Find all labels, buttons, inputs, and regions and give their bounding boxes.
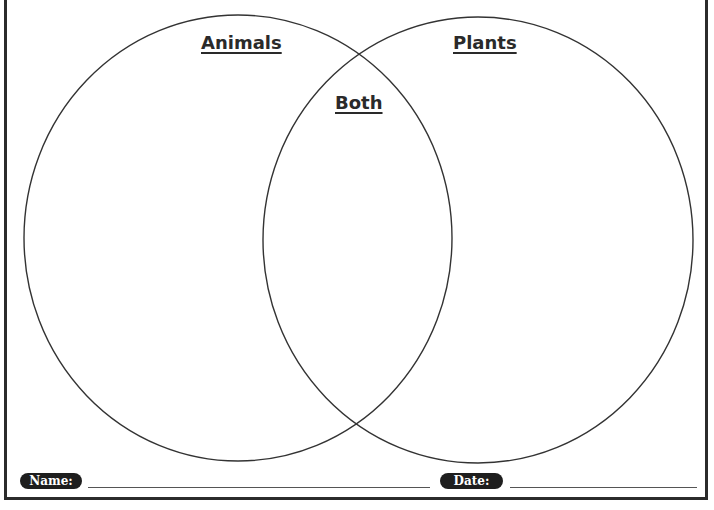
name-badge: Name: bbox=[20, 473, 82, 489]
venn-diagram bbox=[0, 0, 714, 510]
both-label: Both bbox=[335, 92, 383, 113]
animals-label: Animals bbox=[201, 32, 282, 53]
plants-label: Plants bbox=[453, 32, 517, 53]
date-badge: Date: bbox=[440, 473, 503, 489]
date-input-line[interactable] bbox=[510, 487, 697, 488]
animals-circle bbox=[24, 15, 452, 461]
plants-circle bbox=[263, 17, 693, 463]
name-input-line[interactable] bbox=[88, 487, 430, 488]
